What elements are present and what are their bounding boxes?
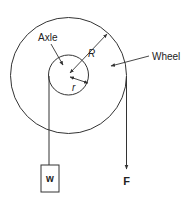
radius-R-label: R [88,48,95,59]
wheel-label: Wheel [152,51,180,62]
radius-r-label: r [72,82,76,93]
wheel-pointer-arrow [111,56,149,66]
force-label: F [123,175,130,187]
wheel-circle [11,18,127,134]
weight-label: w [45,173,54,184]
axle-label: Axle [38,32,58,43]
axle-circle [49,55,89,95]
wheel-axle-diagram: w F R r Axle Wheel [0,0,189,205]
